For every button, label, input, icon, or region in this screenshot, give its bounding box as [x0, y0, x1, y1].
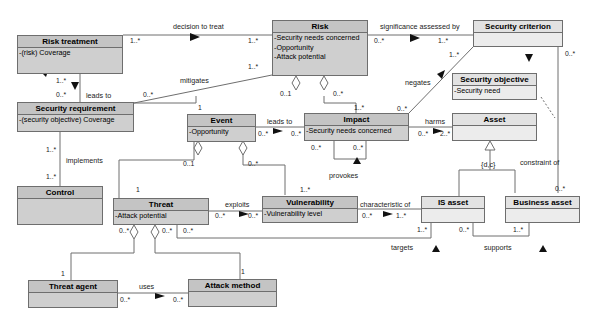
class-attribute: -Vulnerability level [263, 209, 357, 219]
multiplicity: 1..* [417, 226, 427, 233]
multiplicity: 1..* [248, 63, 258, 70]
multiplicity: 0..* [56, 91, 66, 98]
multiplicity: 1..* [130, 37, 140, 44]
multiplicity: 2..* [440, 130, 450, 137]
class-name: Impact [305, 114, 408, 126]
multiplicity: 0..* [162, 227, 172, 234]
class-name: Threat [114, 199, 208, 211]
class-name: Asset [453, 114, 536, 126]
assoc-label-decision-to-treat: decision to treat [173, 22, 224, 31]
class-risk-treatment[interactable]: Risk treatment -(risk) Coverage [17, 35, 123, 74]
multiplicity: 0..* [459, 226, 469, 233]
multiplicity: 1 [241, 268, 245, 275]
multiplicity: 0..* [565, 50, 575, 57]
multiplicity: 0..* [173, 296, 183, 303]
multiplicity: 1..* [513, 226, 523, 233]
assoc-label-supports: supports [484, 243, 512, 252]
multiplicity: 0..1 [183, 160, 194, 167]
multiplicity: 0..* [333, 90, 343, 97]
multiplicity: 1..* [396, 212, 406, 219]
multiplicity: 1..* [300, 186, 310, 193]
multiplicity: 0..* [353, 144, 363, 151]
class-name: Business asset [506, 197, 579, 209]
class-impact[interactable]: Impact -Security needs concerned [304, 113, 409, 141]
class-risk[interactable]: Risk -Security needs concerned -Opportun… [272, 20, 368, 76]
class-attribute: -Security needs concerned [273, 33, 367, 43]
class-name: Security requirement [18, 103, 133, 115]
multiplicity: 1..* [46, 146, 56, 153]
multiplicity: 0..* [291, 130, 301, 137]
multiplicity: 0..* [183, 227, 193, 234]
class-name: Risk treatment [18, 36, 122, 48]
multiplicity: 0..* [418, 130, 428, 137]
assoc-label-leads-to: leads to [86, 91, 111, 100]
multiplicity: 1..* [449, 51, 459, 58]
multiplicity: 0..* [555, 185, 565, 192]
class-name: Attack method [189, 280, 276, 292]
class-security-requirement[interactable]: Security requirement -(security objectiv… [17, 102, 134, 132]
class-threat[interactable]: Threat -Attack potential [113, 198, 209, 225]
multiplicity: 0..* [374, 37, 384, 44]
class-attack-method[interactable]: Attack method [188, 279, 277, 307]
multiplicity: 0..* [397, 105, 407, 112]
class-vulnerability[interactable]: Vulnerability -Vulnerability level [262, 196, 358, 223]
class-name: Vulnerability [263, 197, 357, 209]
class-attribute: -Security need [453, 86, 536, 96]
class-attribute: -Opportunity [188, 127, 255, 137]
class-name: Security criterion [474, 21, 562, 33]
class-name: Security objective [453, 74, 536, 86]
class-attribute: -Security needs concerned [305, 126, 408, 136]
multiplicity: 1..* [248, 37, 258, 44]
multiplicity: 0..* [120, 296, 130, 303]
multiplicity: 1..* [438, 37, 448, 44]
multiplicity: 1 [136, 186, 140, 193]
class-name: Risk [273, 21, 367, 33]
multiplicity: 1 [198, 104, 202, 111]
class-attribute: -Attack potential [114, 211, 208, 221]
class-attribute: -Attack potential [273, 52, 367, 62]
multiplicity: 0..* [248, 160, 258, 167]
multiplicity: 0..1 [280, 90, 291, 97]
multiplicity: 0..* [248, 212, 258, 219]
assoc-label-implements: implements [66, 156, 103, 165]
multiplicity: 1..* [46, 173, 56, 180]
class-event[interactable]: Event -Opportunity [187, 114, 256, 142]
class-name: Event [188, 115, 255, 127]
class-attribute: -(risk) Coverage [18, 48, 122, 58]
multiplicity: 1 [61, 270, 65, 277]
class-name: Control [18, 187, 102, 199]
class-asset[interactable]: Asset [452, 113, 537, 141]
assoc-label-significance-assessed-by: significance assessed by [380, 22, 460, 31]
assoc-label-targets: targets [391, 243, 413, 252]
multiplicity: 1..* [354, 104, 364, 111]
class-security-criterion[interactable]: Security criterion [473, 20, 563, 47]
assoc-label-negates: negates [405, 78, 431, 87]
class-control[interactable]: Control [17, 186, 103, 225]
class-attribute: -Opportunity [273, 43, 367, 53]
class-attribute: -(security objective) Coverage [18, 115, 133, 125]
assoc-label-uses: uses [139, 282, 154, 291]
assoc-label-exploits: exploits [225, 200, 249, 209]
class-security-objective[interactable]: Security objective -Security need [452, 73, 537, 100]
class-threat-agent[interactable]: Threat agent [28, 280, 118, 308]
generalization-constraint: {d,c} [481, 160, 495, 169]
multiplicity: 0..* [215, 212, 225, 219]
class-name: Threat agent [29, 281, 117, 293]
class-is-asset[interactable]: IS asset [421, 196, 485, 223]
assoc-label-leads-to: leads to [267, 117, 292, 126]
assoc-label-mitigates: mitigates [180, 76, 209, 85]
assoc-label-constraint-of: constraint of [520, 158, 559, 167]
multiplicity: 0..* [258, 130, 268, 137]
multiplicity: 1..* [56, 77, 66, 84]
assoc-label-harms: harms [425, 117, 445, 126]
multiplicity: 0..* [119, 227, 129, 234]
multiplicity: 0..* [311, 144, 321, 151]
assoc-label-provokes: provokes [329, 171, 358, 180]
multiplicity: 0..* [143, 91, 153, 98]
class-business-asset[interactable]: Business asset [505, 196, 580, 223]
multiplicity: 0..* [362, 212, 372, 219]
class-name: IS asset [422, 197, 484, 209]
assoc-label-characteristic-of: characteristic of [360, 200, 410, 209]
